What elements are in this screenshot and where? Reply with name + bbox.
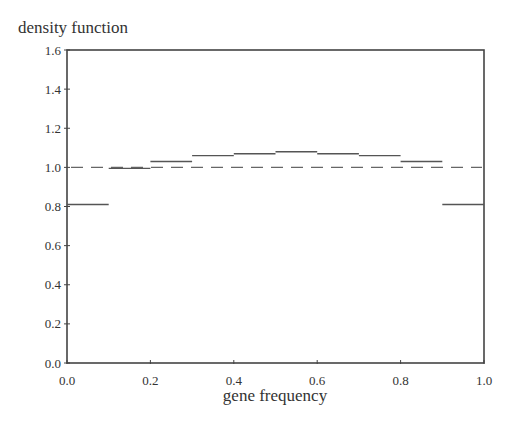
chart-plot: 0.00.20.40.60.81.01.21.41.6 0.00.20.40.6… xyxy=(0,0,512,430)
y-tick-label: 0.8 xyxy=(45,199,61,214)
x-axis-ticks: 0.00.20.40.60.81.0 xyxy=(59,360,492,388)
x-tick-label: 0.2 xyxy=(142,373,158,388)
y-tick-label: 1.4 xyxy=(45,82,62,97)
x-tick-label: 1.0 xyxy=(476,373,492,388)
y-tick-label: 1.6 xyxy=(45,43,62,58)
y-tick-label: 0.6 xyxy=(45,238,62,253)
x-tick-label: 0.6 xyxy=(309,373,326,388)
y-tick-label: 0.2 xyxy=(45,316,61,331)
x-tick-label: 0.8 xyxy=(392,373,408,388)
plot-frame xyxy=(67,50,484,363)
y-tick-label: 1.0 xyxy=(45,160,61,175)
axes-frame xyxy=(67,50,484,363)
y-tick-label: 0.0 xyxy=(45,356,61,371)
y-tick-label: 1.2 xyxy=(45,121,61,136)
density-steps xyxy=(67,152,484,205)
y-tick-label: 0.4 xyxy=(45,277,62,292)
x-tick-label: 0.0 xyxy=(59,373,75,388)
x-tick-label: 0.4 xyxy=(226,373,243,388)
